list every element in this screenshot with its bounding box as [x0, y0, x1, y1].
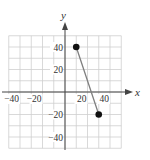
x-axis-label: x: [134, 86, 140, 98]
y-axis-label: y: [60, 9, 66, 21]
coordinate-plane-chart: −40−2020404020−20−40 x y: [0, 0, 150, 160]
data-point: [73, 44, 80, 51]
y-tick-label: 20: [54, 65, 64, 75]
y-axis-arrow-icon: [62, 22, 68, 30]
x-tick-label: 40: [100, 94, 110, 104]
y-tick-label: 40: [54, 43, 64, 53]
y-tick-label: −40: [48, 133, 63, 143]
axes: [2, 22, 133, 150]
y-tick-label: −20: [48, 110, 63, 120]
data-point: [95, 111, 102, 118]
x-tick-label: −20: [27, 94, 42, 104]
x-axis-arrow-icon: [125, 89, 133, 95]
x-tick-label: 20: [77, 94, 87, 104]
x-tick-label: −40: [4, 94, 19, 104]
